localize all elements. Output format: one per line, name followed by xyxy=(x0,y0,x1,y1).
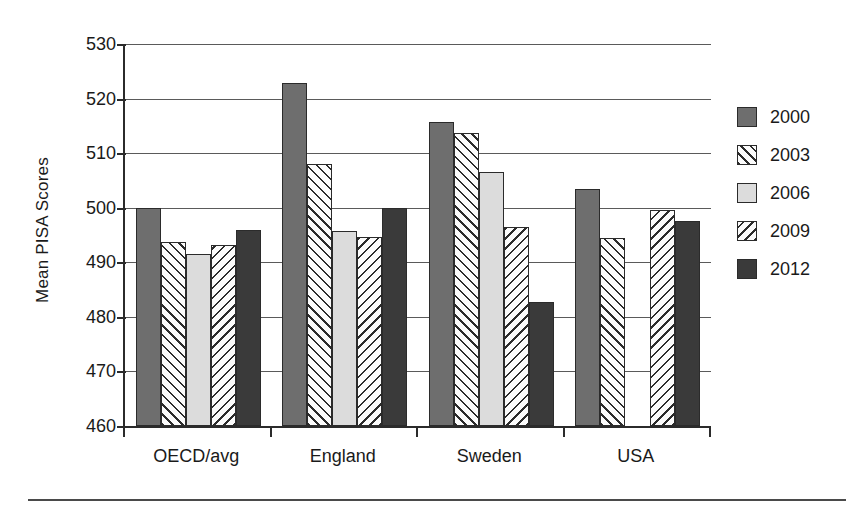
page-divider-rule xyxy=(28,499,846,501)
y-tick-mark xyxy=(117,208,126,210)
bar-sweden-2003 xyxy=(454,133,479,426)
y-tick-mark xyxy=(117,153,126,155)
x-axis-tick xyxy=(123,428,125,437)
legend-label: 2012 xyxy=(770,257,810,281)
gridline xyxy=(125,153,711,154)
bar-england-2009 xyxy=(357,237,382,426)
bar-oecd-avg-2003 xyxy=(161,242,186,426)
bar-england-2006 xyxy=(332,231,357,426)
bar-oecd-avg-2012 xyxy=(236,230,261,426)
y-tick-label: 470 xyxy=(86,362,116,380)
bar-england-2012 xyxy=(382,208,407,426)
bar-england-2003 xyxy=(307,164,332,426)
gridline xyxy=(125,99,711,100)
y-axis-title: Mean PISA Scores xyxy=(33,110,53,350)
bar-usa-2000 xyxy=(575,189,600,426)
y-tick-label: 520 xyxy=(86,90,116,108)
x-category-label-england: England xyxy=(310,446,376,467)
gridline xyxy=(125,208,711,209)
x-axis-tick xyxy=(709,428,711,437)
bar-usa-2003 xyxy=(600,238,625,426)
legend-label: 2006 xyxy=(770,181,810,205)
bar-sweden-2000 xyxy=(429,122,454,427)
x-category-label-sweden: Sweden xyxy=(457,446,522,467)
legend-swatch-icon-2009 xyxy=(737,221,757,241)
x-category-label-oecd-avg: OECD/avg xyxy=(153,446,239,467)
y-tick-label: 460 xyxy=(86,417,116,435)
y-tick-label: 500 xyxy=(86,199,116,217)
bar-usa-2012 xyxy=(675,221,700,426)
y-tick-label: 490 xyxy=(86,253,116,271)
x-category-label-usa: USA xyxy=(617,446,654,467)
y-tick-label: 510 xyxy=(86,144,116,162)
legend-label: 2003 xyxy=(770,143,810,167)
bar-usa-2009 xyxy=(650,210,675,426)
y-tick-mark xyxy=(117,262,126,264)
x-axis-tick xyxy=(416,428,418,437)
gridline xyxy=(125,44,711,45)
legend-swatch-icon-2012 xyxy=(737,259,757,279)
x-axis: OECD/avgEnglandSwedenUSA xyxy=(123,426,711,428)
bar-sweden-2012 xyxy=(529,302,554,426)
x-axis-tick xyxy=(270,428,272,437)
plot-area: 460470480490500510520530 xyxy=(123,44,711,426)
legend-swatch-icon-2000 xyxy=(737,107,757,127)
bar-sweden-2006 xyxy=(479,172,504,426)
y-tick-mark xyxy=(117,371,126,373)
legend-swatch-icon-2003 xyxy=(737,145,757,165)
legend-label: 2009 xyxy=(770,219,810,243)
x-axis-tick xyxy=(563,428,565,437)
legend-label: 2000 xyxy=(770,105,810,129)
y-tick-mark xyxy=(117,99,126,101)
bar-oecd-avg-2009 xyxy=(211,245,236,426)
bar-sweden-2009 xyxy=(504,227,529,426)
y-tick-label: 480 xyxy=(86,308,116,326)
y-tick-mark xyxy=(117,317,126,319)
y-tick-label: 530 xyxy=(86,35,116,53)
bar-oecd-avg-2006 xyxy=(186,254,211,426)
bar-england-2000 xyxy=(282,83,307,426)
pisa-scores-bar-chart: Mean PISA Scores 46047048049050051052053… xyxy=(0,0,854,512)
legend-swatch-icon-2006 xyxy=(737,183,757,203)
y-tick-mark xyxy=(117,44,126,46)
bar-oecd-avg-2000 xyxy=(136,208,161,426)
